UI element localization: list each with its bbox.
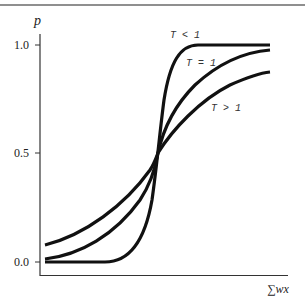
curve-label-t-less-than-1: T < 1 — [170, 30, 200, 41]
y-tick-label-05: 0.5 — [14, 146, 29, 160]
curve-label-t-greater-than-1: T > 1 — [211, 103, 241, 114]
sigmoid-temperature-chart: 1.0 0.5 0.0 p ∑wx T < 1 T = 1 T > 1 — [0, 0, 305, 303]
x-axis-title: ∑wx — [267, 282, 290, 296]
curve-t-greater-than-1 — [45, 72, 270, 245]
y-axis-title: p — [33, 13, 41, 28]
curve-label-t-equal-1: T = 1 — [186, 58, 216, 69]
y-tick-label-0: 0.0 — [14, 255, 29, 269]
y-tick-label-1: 1.0 — [14, 38, 29, 52]
